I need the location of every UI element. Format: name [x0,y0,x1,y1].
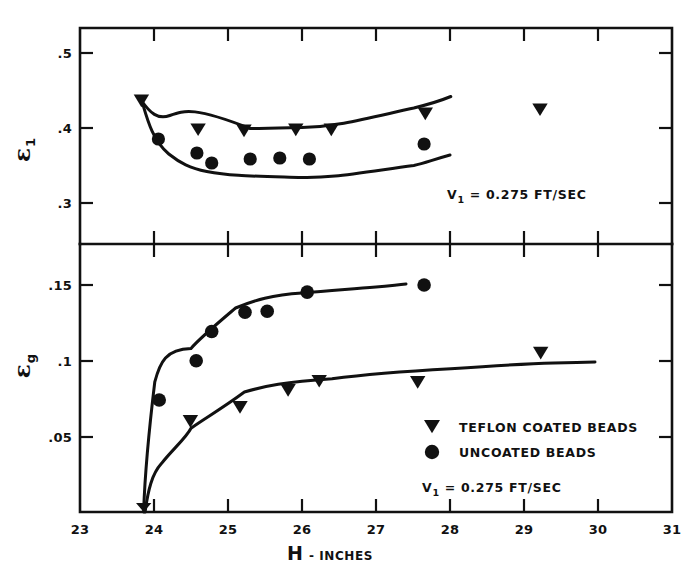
marker-uncoated-lower-2 [205,325,219,339]
x-axis-title-units: - INCHES [309,549,373,563]
marker-uncoated-lower-6 [417,278,431,292]
upper-frame-path [80,28,672,244]
marker-teflon-upper-6 [532,103,547,116]
figure-container: .5 .4 .3 ε1 [0,0,700,578]
chart-svg: .5 .4 .3 ε1 [0,0,700,578]
ytick-label-upper-0.4: .4 [58,121,72,136]
lower-y-ticks-right [659,285,672,437]
marker-teflon-upper-3 [288,124,303,137]
marker-uncoated-upper-1 [190,146,203,159]
ytick-label-lower-0.15: .15 [48,278,72,293]
marker-uncoated-upper-4 [273,151,286,164]
upper-panel-frame [80,28,672,244]
x-axis-tick-labels: 23 24 25 26 27 28 29 30 31 [71,522,682,537]
ytick-label-lower-0.05: .05 [48,430,72,445]
annotation-subscript-lower: 1 [432,487,439,498]
xtick-label-27: 27 [367,522,386,537]
epsilon-symbol-lower: ε [8,364,35,378]
marker-uncoated-lower-5 [300,285,314,299]
xtick-label-28: 28 [441,522,460,537]
marker-teflon-lower-5 [410,376,425,389]
marker-teflon-upper-5 [418,108,433,121]
marker-teflon-lower-3 [280,384,295,397]
lower-y-ticks-left [80,285,93,437]
xtick-label-25: 25 [219,522,238,537]
marker-uncoated-upper-3 [244,152,257,165]
marker-teflon-upper-4 [324,124,339,137]
annotation-symbol-lower: V [422,480,432,495]
annotation-rest-lower: = 0.275 FT/SEC [445,480,562,495]
marker-teflon-lower-0 [136,503,151,512]
annotation-rest-upper: = 0.275 FT/SEC [470,187,587,202]
series-uncoated-upper-markers [152,132,431,169]
ytick-label-upper-0.3: .3 [58,196,72,211]
x-axis-title: H- INCHES [287,542,373,564]
svg-text:εg: εg [8,354,38,378]
epsilon-symbol-upper: ε [8,148,35,162]
upper-y-axis-label: ε1 [8,138,38,162]
lower-panel-annotation: V1= 0.275 FT/SEC [422,480,562,498]
marker-teflon-lower-2 [232,401,247,414]
lower-frame-path [80,244,672,512]
lower-panel-frame [80,244,672,512]
marker-teflon-upper-2 [236,125,251,138]
legend-marker-uncoated-circle-icon [425,445,439,459]
marker-uncoated-lower-1 [189,354,203,368]
marker-teflon-lower-6 [533,347,548,360]
upper-y-ticks-right [659,53,672,203]
ytick-label-upper-0.5: .5 [58,46,72,61]
legend: TEFLON COATED BEADS UNCOATED BEADS V1= 0… [422,420,638,498]
marker-uncoated-upper-6 [418,137,431,150]
xtick-label-31: 31 [663,522,682,537]
legend-label-teflon: TEFLON COATED BEADS [459,420,638,435]
legend-label-uncoated: UNCOATED BEADS [459,445,597,460]
upper-panel-annotation: V1= 0.275 FT/SEC [447,187,587,205]
xtick-label-23: 23 [71,522,90,537]
epsilon-subscript-upper: 1 [23,138,38,147]
x-axis-title-symbol: H [287,542,303,564]
marker-uncoated-lower-3 [238,306,252,320]
xtick-label-29: 29 [515,522,534,537]
legend-marker-teflon-triangle-icon [424,420,440,433]
svg-text:ε1: ε1 [8,138,38,162]
xtick-label-26: 26 [293,522,312,537]
fit-curve-uncoated-lower [144,284,406,512]
marker-teflon-upper-1 [190,123,205,136]
upper-x-ticks [154,28,598,257]
marker-uncoated-lower-4 [260,304,274,318]
xtick-label-30: 30 [589,522,608,537]
lower-y-axis-label: εg [8,354,38,378]
marker-uncoated-upper-0 [152,132,165,145]
xtick-label-24: 24 [145,522,164,537]
annotation-symbol-upper: V [447,187,457,202]
upper-y-ticks-left [80,53,93,203]
marker-uncoated-upper-5 [303,152,316,165]
marker-uncoated-upper-2 [205,156,218,169]
annotation-subscript-upper: 1 [457,194,464,205]
marker-uncoated-lower-0 [152,393,166,407]
ytick-label-lower-0.1: .1 [58,354,72,369]
series-teflon-upper-markers [134,95,548,138]
lower-x-ticks [154,499,598,512]
epsilon-subscript-lower: g [23,354,38,363]
